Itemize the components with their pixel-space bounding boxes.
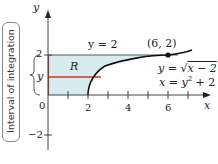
y-tick-2: 2 [36,49,42,59]
line-label-y2: y = 2 [88,39,117,50]
point-label: (6, 2) [147,38,177,49]
x-tick-2: 2 [85,103,91,113]
region-label: R [70,61,78,72]
curve-label-parabola-rhs: + 2 [192,76,215,89]
region-r-shading [48,55,168,95]
x-tick-6: 6 [165,103,171,113]
y-axis-arrow-icon [45,10,51,18]
y-marker-label: y [37,71,43,82]
x-axis-arrow-icon [203,92,211,98]
x-axis-label: x [204,100,210,111]
curve-label-parabola-lhs: x = y [159,76,188,89]
interval-label: Interval of integration [5,29,16,133]
point-6-2 [165,52,170,57]
curve-label-sqrt-lhs: y = [158,62,180,75]
curve-label-parabola: x = y2 + 2 [159,76,215,88]
curve-label-sqrt: y = √x − 2 [158,63,217,74]
y-tick-neg2: −2 [28,130,43,140]
y-axis-label: y [33,2,39,13]
curve-label-sqrt-radicand: x − 2 [187,62,216,75]
x-tick-4: 4 [125,103,131,113]
x-tick-0: 0 [39,101,45,111]
